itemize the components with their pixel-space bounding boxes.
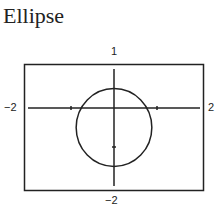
plot-area [0,0,220,211]
